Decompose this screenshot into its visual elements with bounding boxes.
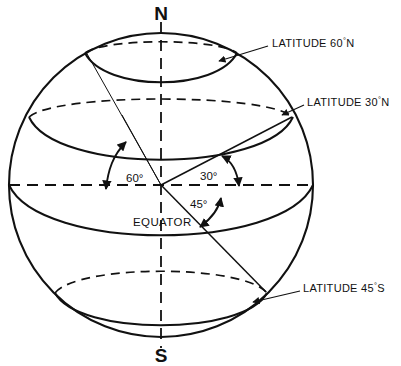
latitude-diagram-page: N S LATITUDE 60°N LATITUDE 30°N LATITUDE… [0, 0, 401, 366]
callout-text-latitude-30-north: LATITUDE 30 [307, 96, 378, 108]
leader-line-latitude-45-south [253, 291, 300, 302]
callout-text-latitude-45-south: LATITUDE 45 [303, 282, 374, 294]
leader-line-latitude-30-north [282, 105, 304, 115]
radius-to-latitude-45-south [161, 185, 266, 292]
angle-arrow-30-north [222, 156, 239, 186]
angle-arrow-60-north [106, 142, 126, 189]
hemisphere-label-60-north: N [346, 37, 354, 49]
south-pole-label: S [155, 345, 168, 366]
angle-label-45: 45° [190, 198, 207, 210]
radius-to-latitude-30-north [161, 117, 292, 185]
angle-label-30: 30° [200, 170, 217, 182]
equator-label: EQUATOR [133, 216, 192, 228]
hemisphere-label-45-south: S [377, 282, 385, 294]
callout-label-latitude-45-south: LATITUDE 45°S [303, 281, 385, 294]
callout-label-latitude-60-north: LATITUDE 60°N [272, 36, 355, 49]
hemisphere-label-30-north: N [381, 96, 389, 108]
callout-label-latitude-30-north: LATITUDE 30°N [307, 95, 390, 108]
sphere-diagram-svg: N S LATITUDE 60°N LATITUDE 30°N LATITUDE… [0, 0, 401, 366]
north-pole-label: N [154, 3, 168, 24]
callout-text-latitude-60-north: LATITUDE 60 [272, 37, 343, 49]
angle-label-60: 60° [126, 172, 143, 184]
